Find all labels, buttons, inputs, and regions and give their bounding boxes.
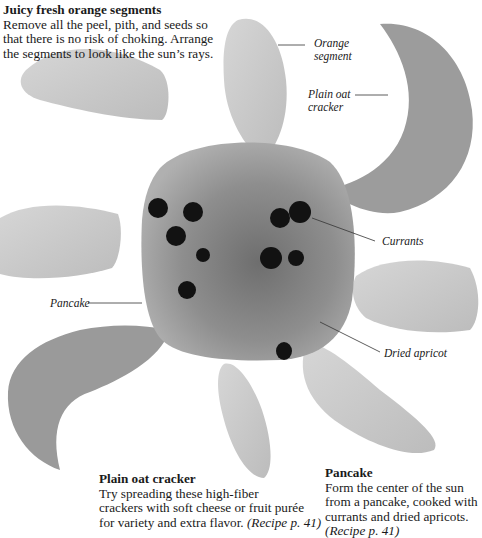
label-plain-oat-cracker: Plain oat cracker	[308, 88, 351, 113]
cracker-caption-title: Plain oat cracker	[99, 472, 329, 487]
orange-caption-line: that there is no risk of choking. Arrang…	[3, 32, 243, 47]
cracker-recipe-ref: (Recipe p. 41)	[247, 515, 321, 530]
label-line: cracker	[308, 101, 351, 114]
pancake-caption: Pancake Form the center of the sun from …	[325, 466, 482, 538]
orange-segment-bottom-right	[303, 344, 436, 454]
label-dried-apricot: Dried apricot	[384, 347, 447, 360]
pancake-caption-title: Pancake	[325, 466, 482, 481]
label-line: Plain oat	[308, 88, 351, 101]
orange-segment-left	[0, 206, 121, 279]
pancake-caption-line: Form the center of the sun	[325, 481, 482, 496]
orange-caption-line: the segments to look like the sun’s rays…	[3, 47, 243, 62]
pancake-recipe-ref: (Recipe p. 41)	[325, 524, 482, 538]
orange-segment-bottom	[218, 364, 271, 478]
orange-segments-caption: Juicy fresh orange segments Remove all t…	[3, 3, 243, 61]
label-line: segment	[314, 50, 352, 63]
orange-segment-right	[353, 260, 478, 332]
label-currants: Currants	[382, 235, 424, 248]
sun-food-arrangement-illustration	[0, 0, 482, 538]
label-line: Orange	[314, 37, 352, 50]
pancake-caption-line: currants and dried apricots.	[325, 510, 482, 525]
pancake-caption-line: from a pancake, cooked with	[325, 495, 482, 510]
cracker-caption-line: Try spreading these high-fiber	[99, 487, 329, 502]
label-orange-segment: Orange segment	[314, 37, 352, 62]
oat-cracker-lower-left	[8, 326, 170, 471]
label-pancake: Pancake	[50, 297, 90, 310]
pancake	[141, 142, 354, 360]
orange-caption-line: Remove all the peel, pith, and seeds so	[3, 18, 243, 33]
cracker-caption-line: crackers with soft cheese or fruit purée	[99, 501, 329, 516]
cracker-caption-line: for variety and extra flavor.	[99, 515, 247, 530]
orange-caption-title: Juicy fresh orange segments	[3, 3, 243, 18]
cracker-caption-line-with-ref: for variety and extra flavor. (Recipe p.…	[99, 516, 329, 531]
oat-cracker-caption: Plain oat cracker Try spreading these hi…	[99, 472, 329, 530]
